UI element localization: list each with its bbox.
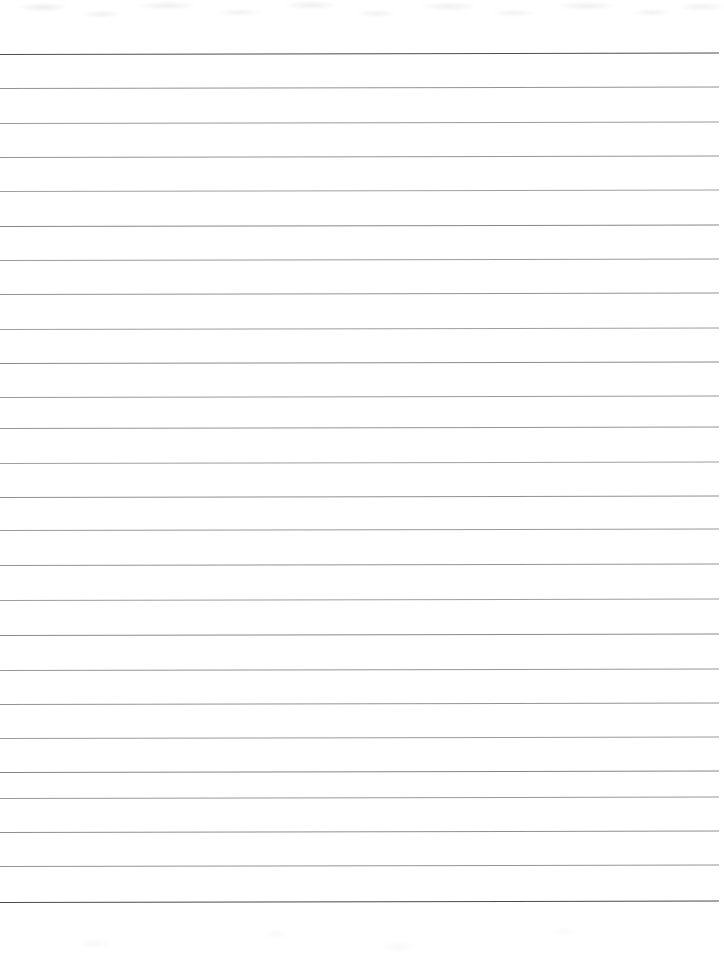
writing-area[interactable] bbox=[0, 54, 718, 902]
scanned-paper-page bbox=[0, 0, 724, 963]
scan-noise-top-artifact bbox=[0, 0, 724, 26]
scan-noise-bottom-artifact bbox=[0, 915, 724, 963]
